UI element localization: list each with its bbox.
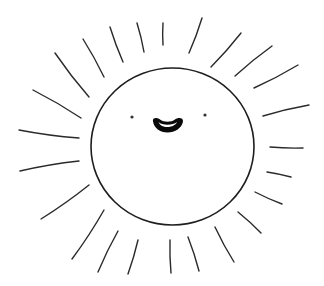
- sun-illustration: Smiling sun line drawing: [0, 0, 324, 286]
- sun-ray: [189, 18, 202, 53]
- sun-ray: [263, 105, 309, 116]
- sun-ray: [235, 46, 272, 76]
- sun-ray: [41, 185, 89, 219]
- sun-ray: [170, 240, 171, 273]
- sun-ray: [98, 231, 118, 272]
- sun-ray: [215, 227, 234, 262]
- sun-ray: [254, 65, 298, 88]
- left-eye-icon: [130, 115, 133, 118]
- sun-ray: [137, 23, 144, 52]
- sun-drawing: [0, 0, 324, 286]
- sun-ray: [19, 130, 79, 138]
- sun-ray: [128, 240, 138, 274]
- sun-ray: [110, 27, 123, 62]
- sun-ray: [55, 53, 89, 97]
- sun-ray: [238, 212, 261, 233]
- sun-ray: [267, 172, 291, 177]
- sun-ray: [83, 39, 104, 77]
- sun-ray: [20, 161, 79, 171]
- sun-ray: [270, 147, 303, 148]
- right-eye-icon: [203, 113, 206, 116]
- sun-ray: [33, 90, 81, 118]
- sun-ray: [255, 192, 282, 204]
- sun-face-circle: [91, 68, 254, 225]
- sun-ray: [211, 33, 241, 67]
- sun-ray: [72, 210, 104, 259]
- sun-ray: [188, 237, 199, 271]
